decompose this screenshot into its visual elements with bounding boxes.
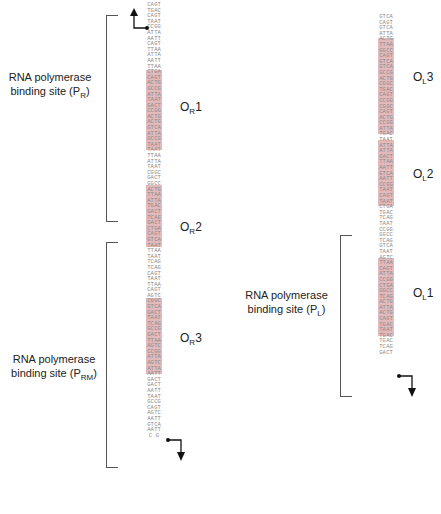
pr-label: RNA polymerase binding site (PR) xyxy=(0,70,100,103)
ol2-num: 2 xyxy=(427,167,434,181)
pr-label-close: ) xyxy=(86,85,90,97)
prm-label-text: binding site (P xyxy=(11,367,81,379)
pr-transcription-start-arrow-icon xyxy=(128,8,150,32)
prm-label: RNA polymerase binding site (PRM) xyxy=(0,352,108,385)
or1-name: O xyxy=(180,100,189,114)
right-dna-strand: GTCAGTATACTTGGCAGTGTGCACCGTGCACCCGCAACCC… xyxy=(378,14,394,394)
ol1-num: 1 xyxy=(427,286,434,300)
or2-num: 2 xyxy=(195,220,202,234)
pr-label-text: binding site (P xyxy=(10,85,80,97)
operator-or3-label: OR3 xyxy=(180,331,202,347)
or2-name: O xyxy=(180,220,189,234)
or3-name: O xyxy=(180,331,189,345)
prm-label-close: ) xyxy=(93,367,97,379)
operator-ol2-label: OL2 xyxy=(413,167,433,183)
ol3-num: 3 xyxy=(427,70,434,84)
pl-transcription-start-arrow-icon xyxy=(396,372,418,398)
ol2-name: O xyxy=(413,167,422,181)
pl-label-line2: binding site (PL) xyxy=(234,302,339,321)
pr-label-line1: RNA polymerase xyxy=(0,70,100,84)
prm-label-line2: binding site (PRM) xyxy=(0,366,108,385)
ol1-name: O xyxy=(413,286,422,300)
pl-label: RNA polymerase binding site (PL) xyxy=(234,288,339,321)
prm-transcription-start-arrow-icon xyxy=(165,436,187,462)
prm-label-line1: RNA polymerase xyxy=(0,352,108,366)
operator-or1-label: OR1 xyxy=(180,100,202,116)
prm-label-subscript: RM xyxy=(81,373,93,382)
pl-label-close: ) xyxy=(322,303,326,315)
right-strand-top-sequence: GTCAGTATACTTGGCAGTGTGCACCGTGCACCCGCAACCC… xyxy=(379,14,386,394)
left-strand-bottom-sequence: GTACGTATGGTATTGTAATATTAAGAGTTGCGTAATCTGG… xyxy=(154,2,161,512)
pl-label-text: binding site (P xyxy=(248,303,318,315)
pr-label-line2: binding site (PR) xyxy=(0,84,100,103)
pl-label-line1: RNA polymerase xyxy=(234,288,339,302)
left-strand-top-sequence: CATGCATACCATAACATTATAATTCTCAACGCATTAGACC… xyxy=(147,2,154,512)
pl-bracket xyxy=(340,235,352,397)
left-dna-strand: CATGCATACCATAACATTATAATTCTCAACGCATTAGACC… xyxy=(146,2,162,512)
or1-num: 1 xyxy=(195,100,202,114)
operator-or2-label: OR2 xyxy=(180,220,202,236)
operator-ol1-label: OL1 xyxy=(413,286,433,302)
operator-ol3-label: OL3 xyxy=(413,70,433,86)
ol3-name: O xyxy=(413,70,422,84)
or3-num: 3 xyxy=(195,331,202,345)
pr-bracket xyxy=(106,15,118,222)
right-strand-bottom-sequence: CAGTCATATGAACCGTCACACGTGGCACGTGGGCGTTGGG… xyxy=(386,14,393,394)
